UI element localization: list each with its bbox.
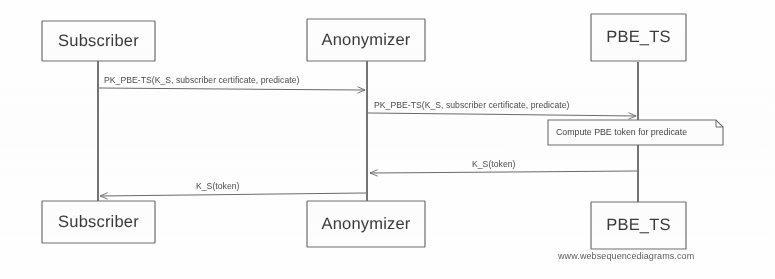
actor-label-bottom-anonymizer: Anonymizer bbox=[307, 201, 425, 247]
message-arrow-1 bbox=[99, 88, 365, 90]
message-arrow-3 bbox=[370, 171, 637, 173]
message-label-1: PK_PBE-TS(K_S, subscriber certificate, p… bbox=[104, 75, 299, 85]
message-arrow-4 bbox=[100, 193, 366, 196]
note-label-compute-pbe-token: Compute PBE token for predicate bbox=[556, 127, 687, 137]
message-label-4: K_S(token) bbox=[196, 181, 240, 191]
actor-label-bottom-subscriber: Subscriber bbox=[42, 201, 155, 243]
actor-label-top-subscriber: Subscriber bbox=[42, 21, 155, 61]
message-arrow-2 bbox=[368, 113, 636, 116]
watermark-attribution: www.websequencediagrams.com bbox=[558, 251, 694, 261]
message-label-2: PK_PBE-TS(K_S, subscriber certificate, p… bbox=[374, 100, 569, 110]
actor-label-bottom-pbe-ts: PBE_TS bbox=[591, 202, 686, 249]
actor-label-top-pbe-ts: PBE_TS bbox=[591, 14, 686, 61]
actor-label-top-anonymizer: Anonymizer bbox=[307, 19, 425, 61]
message-label-3: K_S(token) bbox=[472, 159, 516, 169]
sequence-diagram-canvas: Subscriber Anonymizer PBE_TS Subscriber … bbox=[0, 0, 775, 279]
